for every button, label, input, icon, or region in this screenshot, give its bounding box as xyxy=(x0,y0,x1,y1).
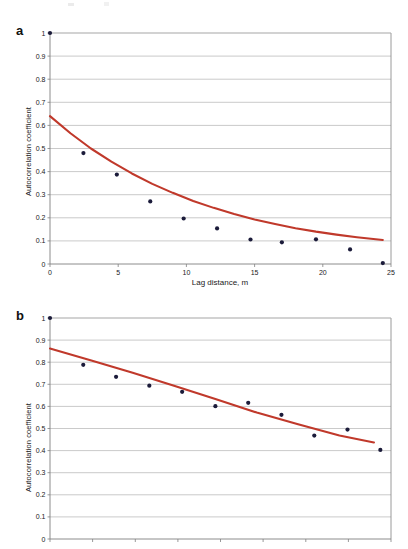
data-point-marker xyxy=(148,199,152,203)
data-point-marker xyxy=(246,401,250,405)
y-tick-label: 0.3 xyxy=(36,469,46,476)
chart-a-plot: 00.10.20.30.40.50.60.70.80.910510152025 xyxy=(0,0,408,292)
data-point-marker xyxy=(114,375,118,379)
x-tick-label: 15 xyxy=(251,269,259,276)
data-point-marker xyxy=(378,448,382,452)
data-point-marker xyxy=(348,247,352,251)
y-tick-label: 0.8 xyxy=(36,359,46,366)
y-tick-label: 0.8 xyxy=(36,76,46,83)
x-tick-label: 10 xyxy=(183,269,191,276)
y-tick-label: 0.2 xyxy=(36,214,46,221)
x-tick-label: 5 xyxy=(116,269,120,276)
chart-a-x-axis-label: Lag distance, m xyxy=(16,278,408,287)
data-point-marker xyxy=(280,240,284,244)
x-tick-label: 0 xyxy=(48,269,52,276)
y-tick-label: 1 xyxy=(42,315,46,322)
data-point-marker xyxy=(213,404,217,408)
panel-b: b 00.10.20.30.40.50.60.70.80.91 Autocorr… xyxy=(0,292,408,549)
chart-b-plot: 00.10.20.30.40.50.60.70.80.91 xyxy=(0,292,408,549)
panel-a: a 00.10.20.30.40.50.60.70.80.91051015202… xyxy=(0,0,408,292)
y-tick-label: 0.3 xyxy=(36,191,46,198)
y-tick-label: 0.1 xyxy=(36,513,46,520)
y-tick-label: 0 xyxy=(42,261,46,268)
data-point-marker xyxy=(314,237,318,241)
data-point-marker xyxy=(312,433,316,437)
y-tick-label: 0.7 xyxy=(36,99,46,106)
data-point-marker xyxy=(115,173,119,177)
data-point-marker xyxy=(81,363,85,367)
data-point-marker xyxy=(48,316,52,320)
data-point-marker xyxy=(345,428,349,432)
data-point-marker xyxy=(248,237,252,241)
data-point-marker xyxy=(81,151,85,155)
chart-b-y-axis-label: Autocorrelation coefficient xyxy=(24,403,33,492)
chart-a-y-axis-label: Autocorrelation coefficient xyxy=(24,107,33,196)
data-point-marker xyxy=(279,413,283,417)
y-tick-label: 0 xyxy=(42,536,46,543)
data-point-marker xyxy=(215,226,219,230)
data-point-marker xyxy=(48,31,52,35)
y-tick-label: 0.5 xyxy=(36,425,46,432)
data-point-marker xyxy=(180,390,184,394)
y-tick-label: 0.9 xyxy=(36,53,46,60)
y-tick-label: 0.7 xyxy=(36,381,46,388)
y-tick-label: 0.4 xyxy=(36,447,46,454)
y-tick-label: 0.6 xyxy=(36,403,46,410)
y-tick-label: 0.5 xyxy=(36,145,46,152)
y-tick-label: 0.6 xyxy=(36,122,46,129)
data-point-marker xyxy=(147,384,151,388)
x-tick-label: 20 xyxy=(319,269,327,276)
data-point-marker xyxy=(381,261,385,265)
y-tick-label: 0.4 xyxy=(36,168,46,175)
figure-autocorrelation-panels: a 00.10.20.30.40.50.60.70.80.91051015202… xyxy=(0,0,408,549)
y-tick-label: 0.9 xyxy=(36,337,46,344)
fitted-curve xyxy=(50,116,383,240)
data-point-marker xyxy=(182,216,186,220)
x-tick-label: 25 xyxy=(387,269,395,276)
y-tick-label: 1 xyxy=(42,30,46,37)
y-tick-label: 0.1 xyxy=(36,237,46,244)
y-tick-label: 0.2 xyxy=(36,491,46,498)
